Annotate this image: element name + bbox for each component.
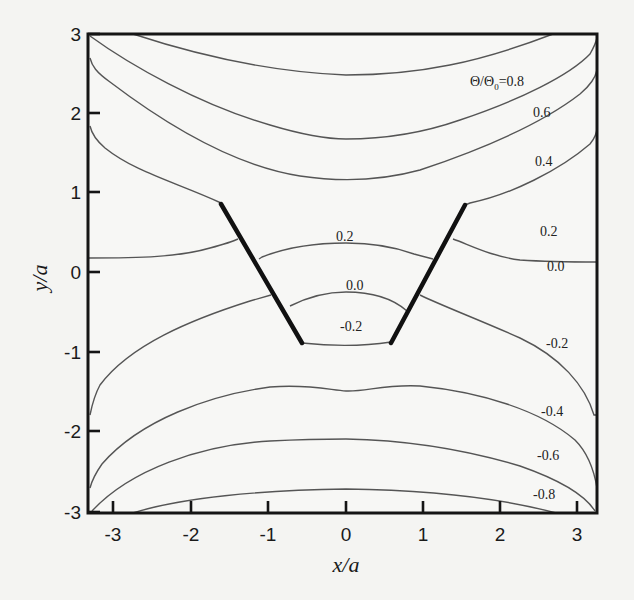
contour-label-0.4: 0.4 (535, 154, 553, 169)
contour-label-0.6: 0.6 (533, 105, 551, 120)
y-tick-label: 0 (70, 262, 81, 283)
x-tick-label: -1 (260, 524, 277, 545)
y-tick-label: 2 (70, 103, 81, 124)
x-tick-label: 1 (418, 524, 429, 545)
contour-label-0.2-outer: 0.2 (540, 224, 558, 239)
contour-label-m0.2-outer: -0.2 (546, 336, 568, 351)
y-tick-labels: 3 2 1 0 -1 -2 -3 (64, 24, 81, 523)
contour-label-0.2-inner: 0.2 (336, 229, 354, 244)
contour-label-m0.4: -0.4 (541, 404, 563, 419)
y-tick-label: 3 (70, 24, 81, 45)
y-tick-label: -2 (64, 421, 81, 442)
x-tick-labels: -3 -2 -1 0 1 2 3 (105, 524, 583, 545)
contour-label-m0.6: -0.6 (537, 448, 559, 463)
contour-label-0.0-inner: 0.0 (346, 278, 364, 293)
x-tick-label: 3 (572, 524, 583, 545)
x-axis-title: x/a (332, 552, 360, 577)
plot-area (88, 34, 597, 513)
y-tick-label: -3 (64, 502, 81, 523)
x-tick-label: -2 (183, 524, 200, 545)
contour-label-m0.2-inner: -0.2 (340, 319, 362, 334)
x-tick-label: 2 (495, 524, 506, 545)
contour-figure: -3 -2 -1 0 1 2 3 3 2 1 0 -1 -2 -3 x/a y/… (0, 0, 634, 600)
contour-label-m0.8: -0.8 (533, 487, 555, 502)
y-tick-label: -1 (64, 342, 81, 363)
contour-label-0.0-outer: 0.0 (547, 259, 565, 274)
y-tick-label: 1 (70, 182, 81, 203)
y-axis-title: y/a (27, 265, 52, 294)
x-tick-label: 0 (341, 524, 352, 545)
x-tick-label: -3 (105, 524, 122, 545)
